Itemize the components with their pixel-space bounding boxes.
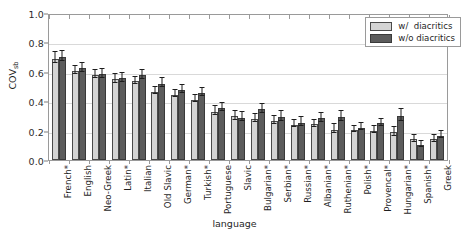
error-bar-cap — [299, 125, 304, 126]
bar — [231, 116, 238, 160]
bar-group — [228, 15, 248, 160]
bar — [410, 139, 417, 160]
error-bar-cap — [292, 126, 297, 127]
x-axis-tick: Turkish* — [188, 163, 208, 219]
error-bar-cap — [339, 110, 344, 111]
bar — [99, 74, 106, 160]
error-bar-cap — [60, 60, 65, 61]
bar — [338, 117, 345, 160]
x-axis-tick: Old Slavic — [148, 163, 168, 219]
legend-swatch-with-diacritics — [370, 22, 392, 31]
error-bar-cap — [93, 77, 98, 78]
x-axis-tick: Ruthenian* — [328, 163, 348, 219]
error-bar-cap — [140, 78, 145, 79]
error-bar-cap — [339, 120, 344, 121]
error-bar-cap — [252, 113, 257, 114]
y-axis-tick-label: 0.2 — [0, 126, 44, 137]
error-bar-cap — [212, 105, 217, 106]
bar — [198, 93, 205, 160]
error-bar-cap — [159, 77, 164, 78]
x-axis-tick: Bulgarian* — [248, 163, 268, 219]
error-bar-cap — [418, 146, 423, 147]
x-axis-tick: Neo-Greek — [88, 163, 108, 219]
bar — [430, 139, 437, 160]
error-bar-cap — [398, 120, 403, 121]
error-bar-cap — [80, 62, 85, 63]
bar — [358, 128, 365, 160]
bar-group — [188, 15, 208, 160]
error-bar-cap — [431, 134, 436, 135]
bar — [151, 92, 158, 160]
x-axis-tick: Spanish* — [408, 163, 428, 219]
error-bar-cap — [239, 120, 244, 121]
error-bar-cap — [232, 119, 237, 120]
error-bar-cap — [172, 89, 177, 90]
bar-group — [248, 15, 268, 160]
error-bar-cap — [73, 73, 78, 74]
x-axis-tick: English — [68, 163, 88, 219]
bar-group — [208, 15, 228, 160]
y-axis-tick-label: 0.8 — [0, 38, 44, 49]
y-axis-tick-label: 1.0 — [0, 9, 44, 20]
bar — [171, 95, 178, 160]
error-bar-cap — [272, 123, 277, 124]
bar — [318, 118, 325, 160]
bar — [139, 75, 146, 160]
bar — [437, 136, 444, 160]
bar-group — [149, 15, 169, 160]
bar — [298, 123, 305, 160]
error-bar-cap — [279, 110, 284, 111]
error-bar-cap — [100, 68, 105, 69]
legend-label-without-diacritics: w/o diacritics — [398, 33, 455, 43]
x-axis-tick: Serbian* — [268, 163, 288, 219]
x-axis-tick: Slavic — [228, 163, 248, 219]
error-bar-cap — [212, 114, 217, 115]
y-axis-tick-label: 0.4 — [0, 97, 44, 108]
bar — [92, 75, 99, 160]
error-bar-cap — [192, 94, 197, 95]
error-bar-cap — [159, 86, 164, 87]
error-bar-cap — [113, 73, 118, 74]
error-bar-cap — [418, 140, 423, 141]
bar — [112, 79, 119, 160]
legend-item-without-diacritics: w/o diacritics — [370, 33, 455, 43]
error-bar-cap — [299, 116, 304, 117]
error-bar-cap — [172, 96, 177, 97]
error-bar-cap — [312, 126, 317, 127]
error-bar-cap — [312, 119, 317, 120]
error-bar-cap — [199, 95, 204, 96]
error-bar-cap — [272, 115, 277, 116]
bar — [238, 118, 245, 160]
error-bar-cap — [152, 86, 157, 87]
bar — [119, 78, 126, 160]
error-bar-cap — [359, 129, 364, 130]
legend-label-with-diacritics: w/ diacritics — [398, 21, 452, 31]
bar — [331, 130, 338, 160]
error-bar-cap — [292, 119, 297, 120]
bar — [291, 125, 298, 160]
x-axis-tick: Portuguese — [208, 163, 228, 219]
error-bar-cap — [179, 92, 184, 93]
bar — [158, 84, 165, 160]
bar — [311, 124, 318, 160]
y-axis-tick-label: 0.0 — [0, 156, 44, 167]
x-axis-tick-label: Greek — [443, 165, 453, 191]
error-bar-cap — [219, 102, 224, 103]
error-bar-cap — [391, 126, 396, 127]
error-bar-cap — [352, 131, 357, 132]
x-axis-tick: Italian — [128, 163, 148, 219]
error-bar-cap — [371, 125, 376, 126]
bar — [351, 130, 358, 160]
error-bar-cap — [431, 141, 436, 142]
bar — [251, 119, 258, 160]
bar-group — [109, 15, 129, 160]
bar — [178, 90, 185, 160]
bar — [79, 68, 86, 160]
error-bar-cap — [80, 71, 85, 72]
bar-group — [328, 15, 348, 160]
error-bar-cap — [259, 112, 264, 113]
error-bar-cap — [133, 76, 138, 77]
error-bar-cap — [152, 93, 157, 94]
x-axis-tick: French* — [48, 163, 68, 219]
legend-item-with-diacritics: w/ diacritics — [370, 21, 455, 31]
